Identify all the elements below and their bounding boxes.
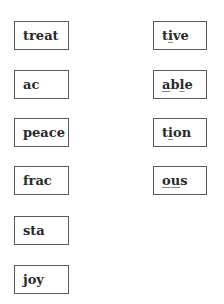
suffix-box[interactable]: tive	[153, 21, 207, 50]
root-word-box[interactable]: sta	[14, 216, 69, 245]
suffix-label: able	[162, 77, 193, 92]
root-word-label: frac	[23, 173, 52, 188]
root-word-label: treat	[23, 28, 59, 43]
root-word-label: peace	[23, 125, 65, 140]
suffix-box[interactable]: tion	[153, 118, 207, 147]
suffix-box[interactable]: able	[153, 70, 207, 99]
root-word-box[interactable]: joy	[14, 265, 69, 294]
root-word-label: sta	[23, 223, 45, 238]
suffix-label: tive	[162, 28, 189, 43]
root-word-box[interactable]: frac	[14, 166, 69, 195]
suffix-label: tion	[162, 125, 191, 140]
root-word-label: joy	[23, 272, 44, 287]
root-word-box[interactable]: peace	[14, 118, 69, 147]
suffix-label: ous	[162, 173, 187, 188]
suffix-box[interactable]: ous	[153, 166, 207, 195]
root-word-box[interactable]: treat	[14, 21, 69, 50]
root-word-label: ac	[23, 77, 39, 92]
root-word-box[interactable]: ac	[14, 70, 69, 99]
